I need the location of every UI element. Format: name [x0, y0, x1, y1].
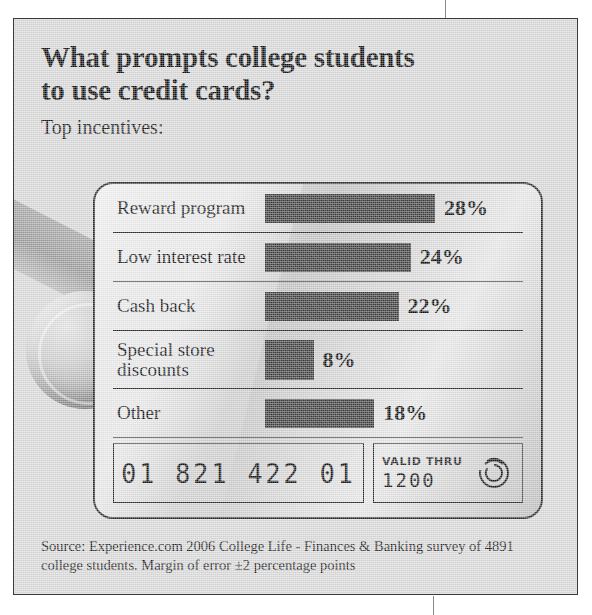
bar-value-label: 22%: [408, 293, 452, 319]
bar-value-label: 18%: [383, 400, 427, 426]
bar-label-line-1: Special store: [117, 339, 215, 360]
source-note: Source: Experience.com 2006 College Life…: [41, 537, 546, 575]
bar-value-label: 8%: [323, 347, 356, 373]
bar-chart-rows: Reward program 28% Low interest rate 24%…: [95, 184, 541, 438]
card-number: 01 821 422 01: [121, 458, 356, 489]
column-rule-top: [445, 0, 446, 18]
table-row: Cash back 22%: [113, 282, 523, 331]
page-title-line-2: to use credit cards?: [41, 74, 275, 106]
bar-fill: [265, 243, 411, 272]
source-line-1: Source: Experience.com 2006 College Life…: [41, 538, 465, 554]
bar-label: Reward program: [113, 198, 265, 218]
bar-fill: [265, 292, 399, 321]
table-row: Low interest rate 24%: [113, 233, 523, 282]
bar-label: Cash back: [113, 296, 265, 316]
page-title: What prompts college students to use cre…: [41, 41, 461, 107]
credit-card-chart: Reward program 28% Low interest rate 24%…: [93, 182, 543, 519]
bar-fill: [265, 399, 374, 428]
headline-block: What prompts college students to use cre…: [41, 41, 461, 139]
valid-thru-text: VALID THRU 1200: [382, 455, 468, 491]
table-row: Special store discounts 8%: [113, 331, 523, 389]
bar-zone: 28%: [265, 184, 523, 232]
page-title-line-1: What prompts college students: [41, 41, 414, 73]
table-row: Reward program 28%: [113, 184, 523, 233]
bar-value-label: 24%: [420, 244, 464, 270]
bar-label-line-2: discounts: [117, 360, 265, 380]
bar-zone: 24%: [265, 233, 523, 281]
bar-label: Low interest rate: [113, 247, 265, 267]
bar-zone: 18%: [265, 389, 523, 437]
valid-thru-box: VALID THRU 1200: [373, 443, 523, 503]
infographic-panel: What prompts college students to use cre…: [13, 18, 578, 595]
bar-fill: [265, 194, 435, 223]
bar-fill: [265, 340, 314, 380]
card-bottom-strip: 01 821 422 01 VALID THRU 1200: [113, 443, 523, 503]
bar-zone: 8%: [265, 331, 523, 388]
table-row: Other 18%: [113, 389, 523, 438]
hologram-icon: [474, 453, 514, 493]
subtitle: Top incentives:: [41, 116, 461, 139]
valid-thru-date: 1200: [382, 469, 468, 491]
bar-value-label: 28%: [444, 195, 488, 221]
bar-label: Special store discounts: [113, 340, 265, 380]
valid-thru-label: VALID THRU: [382, 455, 468, 468]
bar-zone: 22%: [265, 282, 523, 330]
bar-label: Other: [113, 403, 265, 423]
card-number-box: 01 821 422 01: [113, 443, 364, 503]
column-rule-bottom: [433, 596, 434, 615]
